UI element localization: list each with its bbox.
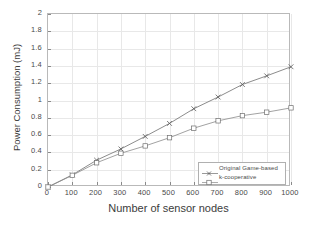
y-tick-label: 0.2: [14, 164, 42, 173]
x-marker-icon: [201, 164, 219, 173]
legend-label: k-cooperative: [219, 173, 256, 182]
legend-item-k-cooperative[interactable]: k-cooperative: [201, 173, 282, 182]
legend-item-original-game-based[interactable]: Original Game-based: [201, 164, 282, 173]
x-tick-label: 1000: [275, 188, 305, 197]
chart-legend[interactable]: Original Game-based k-cooperative: [198, 162, 286, 185]
data-point-square-marker: [216, 119, 220, 123]
data-point-square-marker: [143, 144, 147, 148]
data-point-x-marker: [167, 121, 172, 126]
data-point-square-marker: [192, 126, 196, 130]
y-tick-label: 1.6: [14, 43, 42, 52]
data-point-x-marker: [216, 95, 221, 100]
y-tick-label: 2: [14, 8, 42, 17]
data-point-square-marker: [94, 161, 98, 165]
data-point-square-marker: [240, 113, 244, 117]
x-axis-label: Number of sensor nodes: [47, 202, 290, 214]
y-tick-label: 0.6: [14, 129, 42, 138]
square-marker-icon: [201, 173, 219, 182]
legend-label: Original Game-based: [219, 164, 278, 173]
y-tick-label: 1: [14, 95, 42, 104]
y-tick-label: 0.4: [14, 146, 42, 155]
chart-figure: Power Consumption (mJ) 00.20.40.60.811.2…: [0, 0, 309, 226]
data-point-square-marker: [167, 136, 171, 140]
y-tick-label: 1.4: [14, 60, 42, 69]
data-point-square-marker: [70, 173, 74, 177]
x-tick: [291, 182, 292, 185]
data-point-x-marker: [240, 82, 245, 87]
y-tick-label: 1.2: [14, 77, 42, 86]
data-point-x-marker: [191, 106, 196, 111]
data-point-square-marker: [289, 106, 293, 110]
gridline-vertical: [291, 14, 292, 185]
data-point-square-marker: [119, 151, 123, 155]
data-point-x-marker: [143, 134, 148, 139]
data-point-x-marker: [119, 147, 124, 152]
data-point-square-marker: [265, 110, 269, 114]
plot-area: [47, 13, 290, 186]
y-tick-label: 1.8: [14, 25, 42, 34]
y-tick-label: 0.8: [14, 112, 42, 121]
data-point-x-marker: [264, 73, 269, 78]
